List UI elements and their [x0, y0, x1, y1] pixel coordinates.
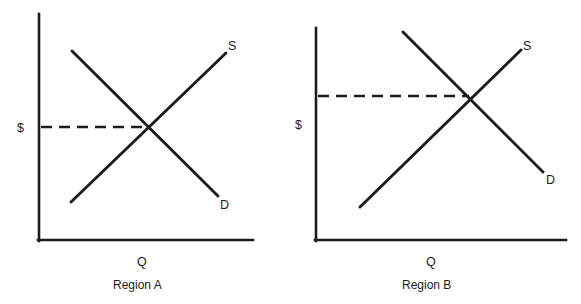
supply-curve-label: S: [523, 40, 531, 53]
supply-curve: [360, 50, 521, 207]
y-axis-label: $: [17, 122, 24, 135]
demand-curve: [403, 32, 543, 172]
x-axis-label: Q: [426, 256, 436, 269]
y-axis-label: $: [295, 119, 302, 132]
panel-region-b: $ S D Q Region B: [290, 0, 581, 304]
demand-curve: [72, 51, 218, 196]
supply-curve-label: S: [228, 40, 236, 53]
x-axis-label: Q: [137, 256, 147, 269]
demand-curve-label: D: [220, 199, 229, 212]
panel-caption: Region A: [113, 279, 162, 291]
demand-curve-label: D: [546, 174, 555, 187]
panel-caption: Region B: [402, 279, 451, 291]
panel-region-a: $ S D Q Region A: [0, 0, 290, 304]
figure-canvas: $ S D Q Region A $ S D Q Region B: [0, 0, 581, 304]
